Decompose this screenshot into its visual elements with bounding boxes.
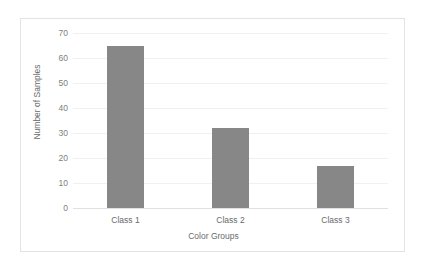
x-axis-tick-label: Class 2: [216, 215, 244, 225]
y-axis-tick-label: 50: [59, 78, 68, 88]
gridline: [73, 208, 388, 209]
bar-series: Class 1Class 2Class 3: [73, 33, 388, 208]
y-axis-tick-label: 0: [63, 203, 68, 213]
x-axis-tick-label: Class 1: [111, 215, 139, 225]
x-axis-title: Color Groups: [21, 231, 406, 241]
bar-slot: Class 3: [283, 33, 388, 208]
x-axis-tick-label: Class 3: [321, 215, 349, 225]
y-axis-tick-label: 40: [59, 103, 68, 113]
y-axis-tick-label: 10: [59, 178, 68, 188]
y-axis-title: Number of Samples: [32, 42, 42, 162]
y-axis-tick-label: 70: [59, 28, 68, 38]
bar[interactable]: [317, 166, 354, 209]
y-axis-tick-label: 30: [59, 128, 68, 138]
bar[interactable]: [107, 46, 144, 209]
y-axis-tick-label: 60: [59, 53, 68, 63]
bar-slot: Class 1: [73, 33, 178, 208]
bar-slot: Class 2: [178, 33, 283, 208]
plot-area: 010203040506070 Class 1Class 2Class 3: [73, 33, 388, 208]
y-axis-tick-label: 20: [59, 153, 68, 163]
chart-figure: Number of Samples 010203040506070 Class …: [20, 18, 405, 252]
bar[interactable]: [212, 128, 249, 208]
